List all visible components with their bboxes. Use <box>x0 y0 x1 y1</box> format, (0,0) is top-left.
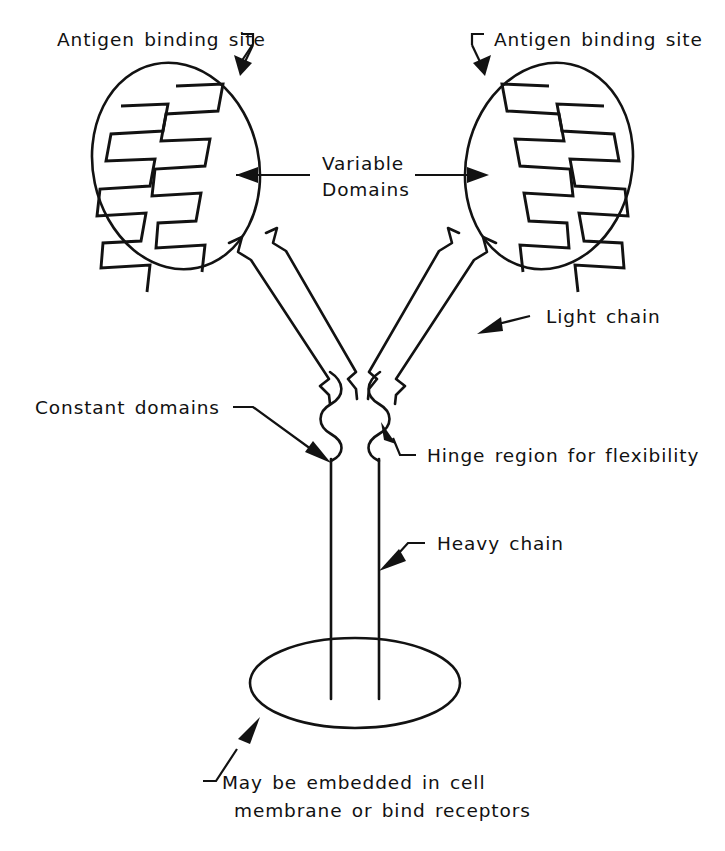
membrane-note-label-line1: May be embedded in cell <box>222 772 485 793</box>
membrane-note-label-line2: membrane or bind receptors <box>234 800 531 821</box>
variable-domains-label-line1: Variable <box>322 153 404 174</box>
variable-domains-label-line2: Domains <box>322 179 410 200</box>
antigen-binding-site-right-label: Antigen binding site <box>494 29 703 50</box>
figure-background <box>0 0 725 851</box>
hinge-region-label: Hinge region for flexibility <box>427 445 699 466</box>
constant-domains-label: Constant domains <box>35 397 220 418</box>
antibody-structure-illustration: Antigen binding site Antigen binding sit… <box>0 0 725 851</box>
antibody-diagram-figure: Antigen binding site Antigen binding sit… <box>0 0 725 851</box>
antigen-binding-site-left-label: Antigen binding site <box>57 29 266 50</box>
light-chain-label: Light chain <box>546 306 661 327</box>
heavy-chain-label: Heavy chain <box>437 533 564 554</box>
